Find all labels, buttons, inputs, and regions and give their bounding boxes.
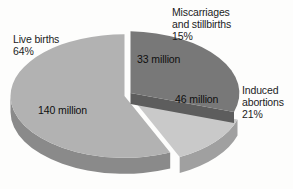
slice-value-miscarriages: 33 million <box>137 53 180 65</box>
slice-value-induced-abortions: 46 million <box>175 93 218 105</box>
slice-label-induced-abortions: Induced abortions 21% <box>242 84 284 121</box>
slice-label-miscarriages: Miscarriages and stillbirths 15% <box>172 6 231 43</box>
slice-value-live-births: 140 million <box>38 104 87 116</box>
pie-chart-figure: Outcomes of pregnancy <box>0 0 293 189</box>
slice-label-live-births: Live births 64% <box>13 33 59 57</box>
